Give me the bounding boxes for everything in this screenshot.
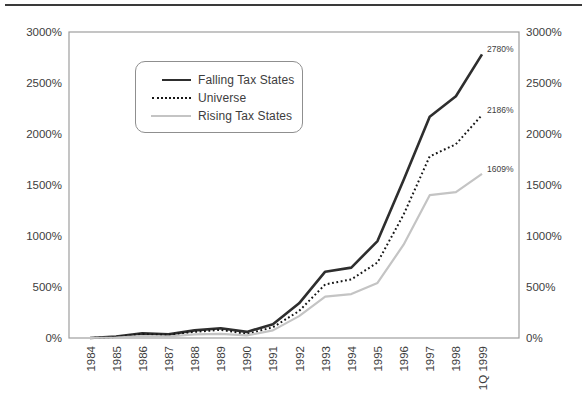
y-axis-right-tick-label: 1000% (526, 230, 562, 242)
x-axis-tick-label: 1996 (398, 346, 410, 372)
legend-swatch (149, 79, 191, 81)
x-axis-tick-label: 1991 (267, 346, 279, 372)
series-line-universe (90, 115, 482, 338)
chart-canvas: 0%0%500%500%1000%1000%1500%1500%2000%200… (0, 0, 587, 415)
x-axis-tick-label: 1989 (215, 346, 227, 372)
y-axis-left-tick-label: 1000% (26, 230, 62, 242)
legend-item-falling-tax-states: Falling Tax States (149, 73, 302, 87)
legend-swatch (149, 115, 191, 117)
y-axis-left-tick-label: 0% (45, 332, 62, 344)
legend-label: Rising Tax States (198, 109, 292, 123)
legend-label: Falling Tax States (198, 73, 294, 87)
x-axis-tick-label: 1987 (163, 346, 175, 372)
chart-legend: Falling Tax States Universe Rising Tax S… (135, 61, 303, 133)
legend-label: Universe (198, 91, 246, 105)
y-axis-left-tick-label: 2500% (26, 77, 62, 89)
x-axis-tick-label: 1988 (189, 346, 201, 372)
solid-line-icon (162, 79, 191, 81)
y-axis-left-tick-label: 3000% (26, 26, 62, 38)
y-axis-right-tick-label: 500% (526, 281, 555, 293)
y-axis-right-tick-label: 2000% (526, 128, 562, 140)
legend-swatch (149, 97, 191, 99)
x-axis-tick-label: 1998 (450, 346, 462, 372)
x-axis-tick-label: 1997 (424, 346, 436, 372)
x-axis-tick-label: 1985 (111, 346, 123, 372)
x-axis-tick-label: 1992 (294, 346, 306, 372)
y-axis-left-tick-label: 1500% (26, 179, 62, 191)
y-axis-right-tick-label: 2500% (526, 77, 562, 89)
x-axis-tick-label: 1986 (137, 346, 149, 372)
series-end-value-label: 2780% (487, 44, 514, 54)
y-axis-right-tick-label: 3000% (526, 26, 562, 38)
x-axis-tick-label: 1994 (346, 345, 358, 371)
x-axis-tick-label: 1995 (372, 346, 384, 372)
dotted-line-icon (152, 97, 191, 99)
x-axis-tick-label: 1Q 1999 (477, 346, 489, 390)
x-axis-tick-label: 1990 (241, 346, 253, 372)
x-axis-tick-label: 1993 (320, 346, 332, 372)
x-axis-tick-label: 1984 (85, 345, 97, 371)
y-axis-right-tick-label: 0% (526, 332, 543, 344)
series-end-value-label: 2186% (487, 105, 514, 115)
legend-item-universe: Universe (149, 91, 302, 105)
y-axis-left-tick-label: 2000% (26, 128, 62, 140)
y-axis-right-tick-label: 1500% (526, 179, 562, 191)
y-axis-left-tick-label: 500% (33, 281, 62, 293)
series-end-value-label: 1609% (487, 164, 514, 174)
solid-line-icon (151, 115, 191, 117)
legend-item-rising-tax-states: Rising Tax States (149, 109, 302, 123)
